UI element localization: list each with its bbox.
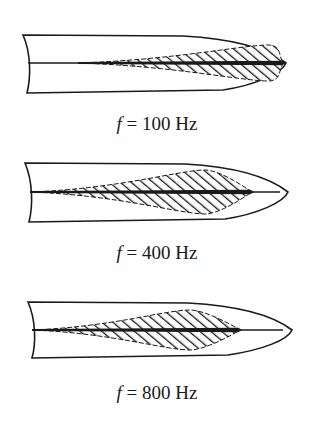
equals-sign: = [127, 242, 138, 263]
frequency-variable: f [117, 382, 122, 403]
equals-sign: = [127, 382, 138, 403]
frequency-label-800hz: f = 800 Hz [0, 382, 314, 404]
frequency-variable: f [117, 242, 122, 263]
excitation-spine [32, 329, 240, 331]
frequency-value: 400 Hz [142, 242, 197, 263]
equals-sign: = [127, 113, 138, 134]
panel-p400 [25, 163, 288, 222]
panel-p800 [28, 302, 292, 358]
frequency-label-400hz: f = 400 Hz [0, 242, 314, 264]
frequency-value: 100 Hz [142, 113, 197, 134]
frequency-variable: f [117, 113, 122, 134]
frequency-label-100hz: f = 100 Hz [0, 113, 314, 135]
panel-p100 [23, 35, 286, 93]
excitation-spine [78, 62, 284, 64]
frequency-value: 800 Hz [142, 382, 197, 403]
diagram-canvas [0, 0, 314, 434]
excitation-spine [30, 191, 252, 193]
